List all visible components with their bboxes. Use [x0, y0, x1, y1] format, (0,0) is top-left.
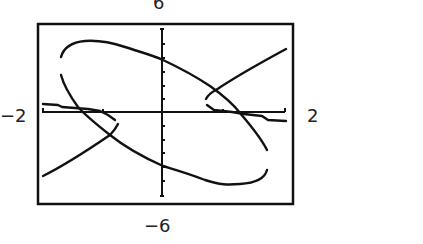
graph-screen	[0, 0, 423, 244]
axes	[42, 29, 285, 196]
loop-lower-arc	[61, 75, 267, 185]
